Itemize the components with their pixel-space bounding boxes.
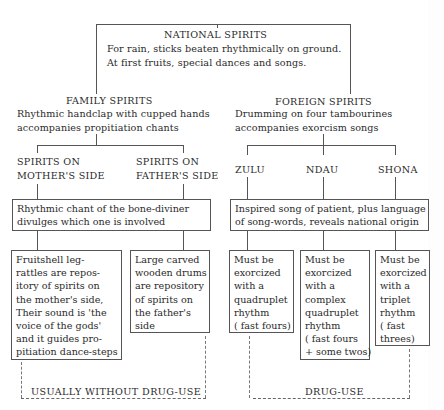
ndau-to-song [323,177,324,200]
family-drug-label: USUALLY WITHOUT DRUG-USE [31,385,201,398]
song-box-text: Inspired song of patient, plus language … [235,202,426,228]
national-top-line [96,24,351,25]
diviner-box: Rhythmic chant of the bone-diviner divul… [12,199,211,231]
song-box: Inspired song of patient, plus language … [230,199,429,231]
shona-label: SHONA [378,163,418,176]
family-dash-left [21,362,22,398]
zulu-branch [247,145,248,155]
national-right-line [350,24,351,94]
family-title: FAMILY SPIRITS [66,94,153,107]
national-line-2: At first fruits, special dances and song… [107,56,306,69]
father-box: Large carved wooden drums are repository… [130,250,210,333]
zulu-box: Must be exorcized with a quadruplet rhyt… [229,250,294,333]
zulu-label: ZULU [235,163,265,176]
national-title: NATIONAL SPIRITS [164,28,267,41]
ndau-branch [323,145,324,155]
shona-branch [395,145,396,155]
shona-to-song [395,177,396,200]
mother-branch [37,145,38,153]
mother-box: Fruitshell leg- rattles are repos- itory… [11,250,122,360]
song-to-zulu [247,231,248,250]
father-label-1: SPIRITS ON [136,155,199,168]
ndau-box: Must be exorcized with a complex quadrup… [300,250,370,360]
foreign-drug-label: DRUG-USE [305,385,364,398]
father-branch [183,145,184,153]
zulu-box-text: Must be exorcized with a quadruplet rhyt… [234,253,291,332]
diviner-to-mother-box [37,231,38,250]
foreign-dash-left [249,336,250,398]
diviner-to-father-box [183,231,184,250]
father-box-text: Large carved wooden drums are repository… [135,253,207,332]
mother-label-2: MOTHER'S SIDE [17,169,105,182]
ndau-box-text: Must be exorcized with a complex quadrup… [305,253,371,359]
national-left-line [96,24,97,94]
father-label-2: FATHER'S SIDE [136,169,218,182]
page-edge [428,0,444,410]
song-to-ndau [323,231,324,250]
family-branch-line [37,145,184,146]
zulu-to-song [247,177,248,200]
mother-to-diviner [37,184,38,200]
ndau-label: NDAU [306,163,338,176]
shona-box-text: Must be exorcized with a triplet rhythm … [380,253,427,345]
national-line-1: For rain, sticks beaten rhythmically on … [107,42,341,55]
foreign-line-1: Drumming on four tambourines [235,107,392,120]
family-line-2: accompanies propitiation chants [17,121,179,134]
family-line-1: Rhythmic handclap with cupped hands [17,107,210,120]
shona-box: Must be exorcized with a triplet rhythm … [375,250,430,346]
mother-label-1: SPIRITS ON [17,155,80,168]
mother-box-text: Fruitshell leg- rattles are repos- itory… [16,253,118,359]
father-to-diviner [183,184,184,200]
diviner-text: Rhythmic chant of the bone-diviner divul… [17,202,189,228]
foreign-line-2: accompanies exorcism songs [235,121,379,134]
family-dash-right [205,336,206,398]
foreign-branch-line [247,145,396,146]
foreign-dash-right [409,349,410,398]
song-to-shona [395,231,396,250]
